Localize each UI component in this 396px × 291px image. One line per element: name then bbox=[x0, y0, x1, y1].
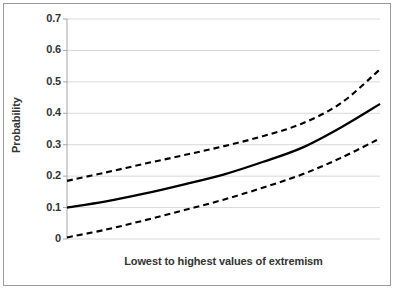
y-axis-tick-label: 0.4 bbox=[46, 106, 61, 118]
y-axis-tick-label: 0.6 bbox=[46, 43, 61, 55]
y-axis-tick-label: 0.2 bbox=[46, 169, 61, 181]
chart-figure: 00.10.20.30.40.50.60.7 Probability Lowes… bbox=[0, 0, 396, 291]
y-axis-title: Probability bbox=[10, 70, 22, 180]
y-axis-tick-label: 0.7 bbox=[46, 12, 61, 24]
y-axis-tick-label: 0.1 bbox=[46, 201, 61, 213]
series-line bbox=[67, 69, 380, 181]
y-axis-tick-label: 0.5 bbox=[46, 75, 61, 87]
series-line bbox=[67, 138, 380, 237]
y-axis-tick-label: 0 bbox=[55, 232, 61, 244]
y-axis-tick-label: 0.3 bbox=[46, 138, 61, 150]
gridlines bbox=[67, 19, 380, 239]
x-axis-title: Lowest to highest values of extremism bbox=[67, 255, 380, 267]
data-series-group bbox=[67, 69, 380, 237]
axis-ticks bbox=[63, 19, 67, 239]
series-line bbox=[67, 104, 380, 208]
